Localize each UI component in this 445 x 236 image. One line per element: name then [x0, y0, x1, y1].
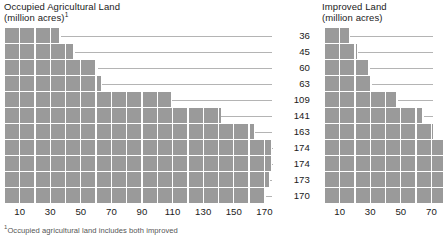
bar-block — [158, 92, 171, 107]
bar-block — [51, 76, 65, 91]
bar-value-label: 170 — [276, 189, 310, 202]
bar-block — [81, 76, 95, 91]
bar-block — [20, 124, 34, 139]
bar-block — [97, 124, 111, 139]
footnote-text: Occupied agricultural land includes both… — [7, 226, 177, 235]
bar-block — [219, 156, 233, 171]
bar-block — [356, 124, 370, 139]
left-title-footnote-marker: 1 — [65, 11, 69, 18]
bar-block — [66, 108, 80, 123]
bar-blocks — [325, 188, 445, 204]
bar-block — [356, 76, 370, 91]
bar-block — [340, 60, 354, 75]
bar-block — [20, 60, 34, 75]
bar-block — [325, 44, 339, 59]
bar-block — [143, 92, 157, 107]
bar-block — [340, 140, 354, 155]
bar-value-label: 141 — [276, 109, 310, 122]
bar-block — [325, 28, 339, 43]
bar-block — [5, 92, 19, 107]
bar-block — [51, 124, 65, 139]
leader-line — [398, 100, 433, 101]
leader-line — [172, 100, 272, 101]
bar-block — [325, 140, 339, 155]
bar-block — [204, 108, 218, 123]
bar-block — [219, 124, 233, 139]
bar-block — [66, 92, 80, 107]
chart-row: 63 — [0, 76, 318, 92]
bar-block — [112, 188, 126, 203]
bar-blocks — [5, 108, 222, 124]
bar-block — [432, 156, 443, 171]
x-axis-tick-label: 70 — [100, 206, 122, 218]
bar-block — [20, 44, 34, 59]
bar-block — [51, 60, 65, 75]
leader-line — [102, 84, 272, 85]
chart-row: 141 — [0, 108, 318, 124]
bar-block — [158, 156, 172, 171]
bar-value-label: 36 — [276, 29, 310, 42]
bar-block — [66, 76, 80, 91]
bar-block — [127, 140, 141, 155]
bar-blocks — [5, 188, 265, 204]
bar-block — [417, 156, 431, 171]
bar-block — [401, 140, 415, 155]
bar-block — [401, 124, 415, 139]
bar-block — [81, 172, 95, 187]
bar-block — [5, 188, 19, 203]
bar-block — [386, 92, 396, 107]
bar-block — [386, 188, 400, 203]
bar-block — [356, 188, 370, 203]
bar-block — [417, 172, 431, 187]
bar-block — [20, 188, 34, 203]
bar-block — [219, 108, 220, 123]
bar-block — [250, 188, 264, 203]
bar-block — [250, 156, 264, 171]
chart-row — [320, 124, 433, 140]
bar-block — [371, 140, 385, 155]
x-axis-tick-label: 70 — [420, 206, 442, 218]
bar-block — [325, 124, 339, 139]
left-chart-title: Occupied Agricultural Land (million acre… — [4, 1, 120, 24]
bar-block — [66, 172, 80, 187]
bar-block — [112, 156, 126, 171]
bar-block — [81, 60, 95, 75]
chart-row — [320, 92, 433, 108]
bar-block — [386, 156, 400, 171]
bar-block — [51, 140, 65, 155]
bar-block — [340, 44, 354, 59]
bar-block — [356, 108, 370, 123]
bar-block — [189, 124, 203, 139]
chart-row — [320, 140, 433, 156]
bar-block — [97, 92, 111, 107]
bar-block — [158, 140, 172, 155]
bar-block — [173, 108, 187, 123]
bar-block — [250, 140, 264, 155]
bar-block — [401, 156, 415, 171]
leader-line — [372, 84, 433, 85]
bar-block — [66, 124, 80, 139]
bar-block — [5, 44, 19, 59]
bar-block — [20, 140, 34, 155]
bar-block — [386, 172, 400, 187]
bar-blocks — [325, 76, 371, 92]
bar-block — [127, 156, 141, 171]
bar-block — [417, 140, 431, 155]
left-plot-area: 36456063109141163174174173170 — [0, 28, 318, 204]
bar-block — [81, 156, 95, 171]
bar-block — [325, 156, 339, 171]
bar-block — [81, 124, 95, 139]
chart-row — [320, 156, 433, 172]
bar-block — [340, 76, 354, 91]
x-axis-tick-label: 170 — [253, 206, 275, 218]
bar-block — [36, 124, 50, 139]
bar-blocks — [5, 124, 255, 140]
bar-block — [66, 44, 73, 59]
bar-value-label: 163 — [276, 125, 310, 138]
bar-block — [219, 172, 233, 187]
bar-block — [204, 140, 218, 155]
bar-block — [173, 140, 187, 155]
chart-row: 109 — [0, 92, 318, 108]
bar-block — [371, 108, 385, 123]
leader-line — [270, 180, 272, 181]
